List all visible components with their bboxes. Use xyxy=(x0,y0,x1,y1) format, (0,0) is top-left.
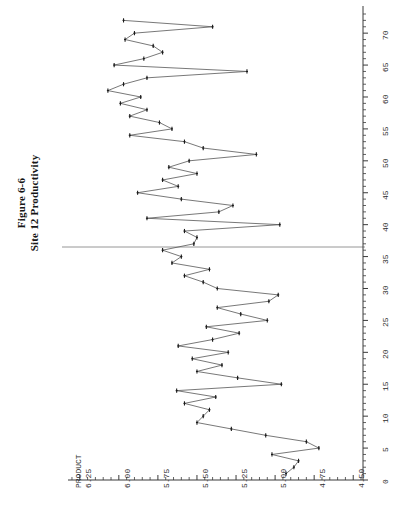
data-point-marker xyxy=(215,395,217,399)
data-point-marker xyxy=(279,223,281,227)
data-point-marker xyxy=(255,152,257,156)
data-point-marker xyxy=(162,248,164,252)
index-axis-tick-label: 45 xyxy=(381,190,390,200)
data-point-marker xyxy=(183,140,185,144)
data-point-marker xyxy=(240,312,242,316)
index-axis-tick-label: 15 xyxy=(381,382,390,392)
data-point-marker xyxy=(265,433,267,437)
data-point-marker xyxy=(140,95,142,99)
index-axis-tick-label: 70 xyxy=(381,31,390,41)
axis-lines-group xyxy=(68,6,363,480)
data-point-marker xyxy=(113,63,115,67)
value-axis-tick-label: 4.50 xyxy=(357,469,366,488)
data-point-marker xyxy=(266,318,268,322)
index-axis-tick-label: 40 xyxy=(381,222,390,232)
data-point-marker xyxy=(183,274,185,278)
index-axis-tick-label: 30 xyxy=(381,286,390,296)
value-axis-tick-label: 5.25 xyxy=(240,469,249,488)
index-axis-tick-label: 20 xyxy=(381,350,390,360)
data-point-marker xyxy=(216,286,218,290)
index-axis-tick-label: 25 xyxy=(381,318,390,328)
data-point-marker xyxy=(208,267,210,271)
data-point-marker xyxy=(146,108,148,112)
index-axis-tick-label: 65 xyxy=(381,62,390,72)
data-point-marker xyxy=(180,254,182,258)
data-point-marker xyxy=(196,369,198,373)
data-point-marker xyxy=(143,57,145,61)
data-point-marker xyxy=(180,197,182,201)
data-point-marker xyxy=(212,25,214,29)
data-point-marker xyxy=(176,389,178,393)
data-point-marker xyxy=(230,427,232,431)
data-point-marker xyxy=(305,440,307,444)
data-point-marker xyxy=(162,178,164,182)
data-point-marker xyxy=(205,325,207,329)
data-point-marker xyxy=(280,382,282,386)
data-point-marker xyxy=(124,37,126,41)
data-point-marker xyxy=(177,184,179,188)
index-axis-tick-label: 55 xyxy=(381,126,390,136)
index-axis-tick-label: 10 xyxy=(381,414,390,424)
data-point-marker xyxy=(171,127,173,131)
data-point-marker xyxy=(268,299,270,303)
data-point-marker xyxy=(271,452,273,456)
index-axis-tick-label: 50 xyxy=(381,158,390,168)
figure-canvas: Figure 6-6 Site 12 Productivity 6.256.00… xyxy=(0,0,396,528)
value-axis-tick-label: 6.00 xyxy=(123,469,132,488)
data-point-marker xyxy=(188,159,190,163)
data-point-marker xyxy=(218,210,220,214)
value-axis-tick-label: 5.00 xyxy=(279,469,288,488)
value-axis-name: PRODUCT xyxy=(74,454,83,488)
plot-area xyxy=(0,0,396,528)
data-point-marker xyxy=(196,420,198,424)
value-axis-tick-label: 5.50 xyxy=(201,469,210,488)
data-point-marker xyxy=(137,191,139,195)
index-axis-tick-label: 35 xyxy=(381,254,390,264)
data-point-marker xyxy=(129,133,131,137)
index-axis-tick-label: 5 xyxy=(381,447,390,452)
data-point-marker xyxy=(277,293,279,297)
data-point-marker xyxy=(146,76,148,80)
data-point-marker xyxy=(191,357,193,361)
value-axis-tick-label: 4.75 xyxy=(318,469,327,488)
value-axis-tick-label: 5.75 xyxy=(162,469,171,488)
data-point-marker xyxy=(221,363,223,367)
data-point-marker xyxy=(168,165,170,169)
data-point-marker xyxy=(123,82,125,86)
data-point-marker xyxy=(183,229,185,233)
data-point-marker xyxy=(119,101,121,105)
data-point-marker xyxy=(232,203,234,207)
data-point-marker xyxy=(177,344,179,348)
data-point-marker xyxy=(123,18,125,22)
data-point-marker xyxy=(216,306,218,310)
data-point-marker xyxy=(202,414,204,418)
data-point-marker xyxy=(246,69,248,73)
data-point-marker xyxy=(129,114,131,118)
data-point-marker xyxy=(162,50,164,54)
data-point-marker xyxy=(237,376,239,380)
data-point-marker xyxy=(238,331,240,335)
data-point-marker xyxy=(107,89,109,93)
index-axis-tick-label: 0 xyxy=(381,479,390,484)
data-point-marker xyxy=(152,44,154,48)
index-axis-tick-label: 60 xyxy=(381,94,390,104)
data-point-marker xyxy=(158,120,160,124)
data-point-marker xyxy=(183,401,185,405)
data-point-marker xyxy=(208,408,210,412)
data-point-marker xyxy=(146,216,148,220)
data-point-marker xyxy=(171,261,173,265)
value-axis-tick-label: 6.25 xyxy=(84,469,93,488)
data-point-marker xyxy=(212,337,214,341)
data-point-marker xyxy=(196,171,198,175)
data-point-marker xyxy=(318,446,320,450)
data-point-marker xyxy=(202,146,204,150)
data-point-marker xyxy=(227,350,229,354)
data-point-marker xyxy=(133,31,135,35)
data-point-marker xyxy=(202,280,204,284)
